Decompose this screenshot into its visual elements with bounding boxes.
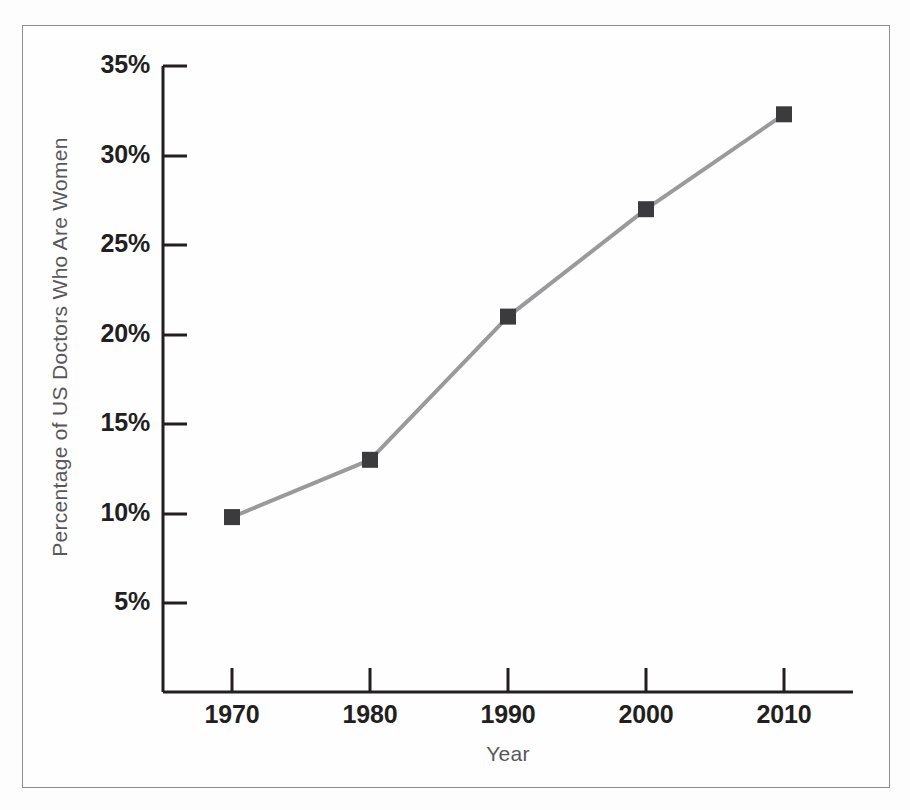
x-tick-label-1980: 1980	[310, 700, 430, 729]
data-point-1980	[362, 452, 378, 468]
y-axis-ticks	[163, 66, 187, 603]
x-axis-ticks	[232, 668, 784, 692]
x-tick-label-1970: 1970	[172, 700, 292, 729]
data-point-2000	[638, 201, 654, 217]
x-tick-label-1990: 1990	[448, 700, 568, 729]
x-axis-title: Year	[163, 742, 853, 766]
y-tick-label-35: 35%	[66, 50, 150, 79]
data-point-2010	[776, 106, 792, 122]
y-tick-label-5: 5%	[66, 587, 150, 616]
x-tick-label-2010: 2010	[724, 700, 844, 729]
y-tick-label-25: 25%	[66, 229, 150, 258]
y-axis-title: Percentage of US Doctors Who Are Women	[48, 67, 72, 627]
data-point-1970	[224, 509, 240, 525]
y-tick-label-10: 10%	[66, 498, 150, 527]
y-tick-label-20: 20%	[66, 319, 150, 348]
figure-canvas: 35% 30% 25% 20% 15% 10% 5% 1970 1980 199…	[0, 0, 910, 810]
data-point-1990	[500, 309, 516, 325]
chart-plot-area: 35% 30% 25% 20% 15% 10% 5% 1970 1980 199…	[0, 0, 910, 810]
y-tick-label-15: 15%	[66, 408, 150, 437]
x-tick-label-2000: 2000	[586, 700, 706, 729]
y-tick-label-30: 30%	[66, 140, 150, 169]
line-chart-graphic	[0, 0, 910, 810]
